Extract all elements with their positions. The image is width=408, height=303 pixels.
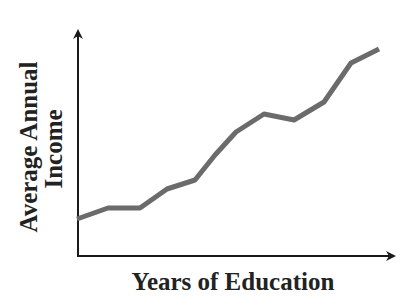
line-chart: Years of Education Average Annual Income	[0, 0, 408, 303]
y-axis-label-line2: Income	[40, 109, 67, 188]
x-axis-label: Years of Education	[132, 268, 335, 295]
income-line	[77, 49, 379, 219]
y-axis-label-line1: Average Annual	[15, 61, 42, 232]
